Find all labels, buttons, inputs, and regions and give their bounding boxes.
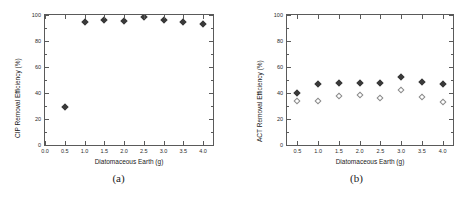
y-tick-minor <box>451 80 453 81</box>
y-tick <box>209 93 213 94</box>
y-tick-minor <box>45 28 47 29</box>
x-tick <box>183 15 184 19</box>
x-tick <box>104 15 105 19</box>
data-point <box>377 95 384 102</box>
x-axis-title-b: Diatomaceous Earth (g) <box>286 158 454 165</box>
y-tick <box>45 67 49 68</box>
x-tick-label: 2.0 <box>356 148 364 154</box>
y-tick <box>209 67 213 68</box>
data-point <box>356 92 363 99</box>
data-point <box>294 89 301 96</box>
y-tick-minor <box>211 80 213 81</box>
plot-area-b <box>287 15 453 145</box>
y-tick <box>449 15 453 16</box>
y-tick-minor <box>287 106 289 107</box>
x-tick-label: 2.5 <box>377 148 385 154</box>
data-point <box>418 78 425 85</box>
plot-area-a <box>45 15 213 145</box>
y-tick <box>287 15 291 16</box>
x-tick <box>104 141 105 145</box>
x-tick-label: 0.5 <box>294 148 302 154</box>
data-point <box>398 87 405 94</box>
x-tick <box>144 15 145 19</box>
data-point <box>81 19 88 26</box>
y-tick-minor <box>451 106 453 107</box>
y-tick-label: 0 <box>280 142 283 148</box>
x-tick <box>65 15 66 19</box>
x-tick-label: 3.0 <box>397 148 405 154</box>
y-tick <box>449 67 453 68</box>
y-tick <box>209 145 213 146</box>
x-tick <box>85 141 86 145</box>
panel-b: 0204060801000.51.01.52.02.53.03.54.0 Dia… <box>238 0 475 202</box>
panel-a: 0204060801000.00.51.01.52.02.53.03.54.0 … <box>0 0 237 202</box>
data-point <box>335 93 342 100</box>
x-tick <box>422 141 423 145</box>
y-tick-label: 20 <box>35 116 41 122</box>
x-tick <box>401 15 402 19</box>
y-tick-minor <box>45 80 47 81</box>
x-tick <box>339 15 340 19</box>
x-tick-label: 2.0 <box>120 148 128 154</box>
y-tick-minor <box>211 28 213 29</box>
x-tick <box>144 141 145 145</box>
x-tick <box>164 15 165 19</box>
y-tick <box>287 145 291 146</box>
y-tick-minor <box>287 80 289 81</box>
y-tick-label: 60 <box>277 64 283 70</box>
y-tick <box>449 41 453 42</box>
x-tick <box>45 141 46 145</box>
y-tick-minor <box>211 54 213 55</box>
data-point <box>439 98 446 105</box>
x-tick <box>45 15 46 19</box>
y-tick-minor <box>287 132 289 133</box>
panel-caption-b: (b) <box>238 172 475 184</box>
data-point <box>180 19 187 26</box>
y-tick <box>449 119 453 120</box>
y-tick-label: 100 <box>32 12 41 18</box>
y-tick-minor <box>287 28 289 29</box>
plot-frame-a: 0204060801000.00.51.01.52.02.53.03.54.0 <box>44 14 214 146</box>
x-tick <box>318 15 319 19</box>
y-tick-label: 100 <box>274 12 283 18</box>
x-tick <box>203 15 204 19</box>
data-point <box>200 21 207 28</box>
data-point <box>418 94 425 101</box>
y-tick-minor <box>451 54 453 55</box>
y-axis-title-a: CIP Removal Efficiency (%) <box>14 58 21 138</box>
y-tick <box>287 67 291 68</box>
panel-caption-a: (a) <box>0 172 237 184</box>
y-tick-label: 60 <box>35 64 41 70</box>
x-tick <box>339 141 340 145</box>
x-tick-label: 0.5 <box>61 148 69 154</box>
x-tick <box>124 15 125 19</box>
x-tick <box>85 15 86 19</box>
x-tick <box>380 141 381 145</box>
y-tick-label: 40 <box>277 90 283 96</box>
data-point <box>315 98 322 105</box>
y-tick <box>45 119 49 120</box>
figure-container: 0204060801000.00.51.01.52.02.53.03.54.0 … <box>0 0 475 202</box>
y-tick-label: 80 <box>35 38 41 44</box>
x-tick <box>360 15 361 19</box>
data-point <box>377 79 384 86</box>
x-tick <box>124 141 125 145</box>
x-tick-label: 4.0 <box>439 148 447 154</box>
y-tick-minor <box>45 106 47 107</box>
y-tick <box>287 93 291 94</box>
y-tick-label: 40 <box>35 90 41 96</box>
y-tick <box>45 41 49 42</box>
y-tick-minor <box>211 132 213 133</box>
y-tick <box>287 41 291 42</box>
data-point <box>315 80 322 87</box>
x-tick-label: 3.5 <box>180 148 188 154</box>
x-tick-label: 4.0 <box>199 148 207 154</box>
x-tick-label: 1.5 <box>335 148 343 154</box>
x-tick-label: 2.5 <box>140 148 148 154</box>
x-tick-label: 0.0 <box>41 148 49 154</box>
x-tick-label: 1.0 <box>314 148 322 154</box>
y-tick <box>287 119 291 120</box>
y-tick-minor <box>451 28 453 29</box>
plot-frame-b: 0204060801000.51.01.52.02.53.03.54.0 <box>286 14 454 146</box>
x-tick-label: 3.0 <box>160 148 168 154</box>
